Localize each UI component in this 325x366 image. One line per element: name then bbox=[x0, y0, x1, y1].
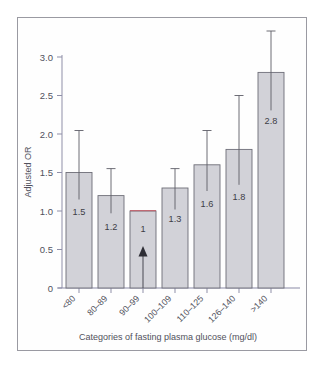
x-tick-label: <80 bbox=[60, 293, 78, 311]
x-tick-label: >140 bbox=[248, 293, 269, 314]
x-tick-marks bbox=[79, 288, 271, 293]
bar-value-label: 1.6 bbox=[201, 199, 214, 209]
bar-group-reference[interactable]: 1 bbox=[130, 211, 156, 288]
x-tick-label: 110–125 bbox=[175, 293, 206, 324]
x-tick-label: 100–109 bbox=[142, 293, 173, 324]
bar-group[interactable]: 1.3 bbox=[162, 169, 188, 288]
figure-canvas: 3.0 2.5 2.0 1.5 1.0 0.5 0 Adjusted OR bbox=[0, 0, 325, 366]
bar-value-label: 2.8 bbox=[265, 116, 278, 126]
bar-value-label: 1 bbox=[140, 224, 145, 234]
bar-value-label: 1.3 bbox=[169, 214, 182, 224]
bar-chart: 3.0 2.5 2.0 1.5 1.0 0.5 0 Adjusted OR bbox=[0, 0, 325, 366]
bar-group[interactable]: 1.5 bbox=[66, 131, 92, 289]
bar-value-label: 1.2 bbox=[105, 222, 118, 232]
y-tick-label: 1.0 bbox=[40, 206, 53, 217]
bar-group[interactable]: 1.2 bbox=[98, 169, 124, 288]
x-tick-label: 90–99 bbox=[117, 293, 141, 317]
y-tick-label: 2.5 bbox=[40, 90, 53, 101]
y-tick-labels: 3.0 2.5 2.0 1.5 1.0 0.5 0 bbox=[40, 52, 53, 294]
y-tick-label: 2.0 bbox=[40, 129, 53, 140]
y-tick-marks bbox=[57, 57, 62, 288]
y-tick-label: 0 bbox=[48, 283, 53, 294]
bar-group[interactable]: 1.6 bbox=[194, 131, 220, 289]
bar-group[interactable]: 2.8 bbox=[258, 31, 284, 288]
y-tick-label: 0.5 bbox=[40, 244, 53, 255]
y-axis-title: Adjusted OR bbox=[23, 146, 33, 198]
x-tick-labels: <80 80–89 90–99 100–109 110–125 126–140 … bbox=[60, 293, 270, 324]
plot-surface: 3.0 2.5 2.0 1.5 1.0 0.5 0 Adjusted OR bbox=[0, 0, 325, 366]
bar-value-label: 1.8 bbox=[233, 192, 246, 202]
x-tick-label: 126–140 bbox=[206, 293, 237, 324]
bar-group[interactable]: 1.8 bbox=[226, 96, 252, 289]
x-tick-label: 80–89 bbox=[85, 293, 109, 317]
y-tick-label: 3.0 bbox=[40, 52, 53, 63]
x-axis-title: Categories of fasting plasma glucose (mg… bbox=[79, 332, 257, 342]
y-tick-label: 1.5 bbox=[40, 167, 53, 178]
bar-value-label: 1.5 bbox=[73, 207, 86, 217]
